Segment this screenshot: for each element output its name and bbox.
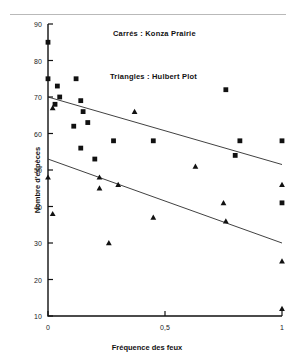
x-tick-label: 0,5	[160, 324, 170, 331]
y-tick-label: 90	[18, 21, 42, 28]
data-point-square	[85, 120, 90, 125]
y-tick-label: 10	[18, 313, 42, 320]
data-point-triangle	[193, 163, 199, 168]
y-axis-title: Nombre d'espèces	[33, 147, 42, 213]
data-point-square	[233, 153, 238, 158]
data-point-triangle	[279, 182, 285, 187]
data-point-square	[223, 87, 228, 92]
x-axis-title: Fréquence des feux	[112, 343, 182, 352]
data-point-triangle	[279, 306, 285, 311]
axis-lines	[48, 24, 282, 316]
y-tick-label: 80	[18, 57, 42, 64]
data-point-triangle	[221, 200, 227, 205]
data-point-square	[55, 84, 60, 89]
data-point-triangle	[106, 240, 112, 245]
data-point-square	[151, 138, 156, 143]
y-tick-label: 20	[18, 276, 42, 283]
x-tick-label: 1	[280, 324, 284, 331]
y-tick-label: 60	[18, 130, 42, 137]
data-point-triangle	[132, 109, 138, 114]
data-point-square	[78, 98, 83, 103]
data-point-triangle	[223, 218, 229, 223]
data-point-square	[53, 102, 58, 107]
data-point-square	[111, 138, 116, 143]
data-point-square	[78, 146, 83, 151]
scatter-plot-figure: Carrés : Konza Prairie Triangles : Hulbe…	[0, 0, 294, 361]
data-point-triangle	[115, 182, 121, 187]
data-point-square	[74, 76, 79, 81]
y-tick-label: 30	[18, 240, 42, 247]
data-point-square	[46, 76, 51, 81]
data-point-square	[46, 40, 51, 45]
data-point-triangle	[45, 174, 51, 179]
data-point-square	[71, 124, 76, 129]
data-point-square	[280, 138, 285, 143]
data-markers	[45, 40, 285, 311]
plot-canvas	[0, 0, 294, 361]
data-point-triangle	[50, 211, 56, 216]
x-tick-label: 0	[46, 324, 50, 331]
data-point-square	[237, 138, 242, 143]
y-tick-label: 70	[18, 94, 42, 101]
data-point-triangle	[150, 215, 156, 220]
regression-lines	[48, 97, 282, 243]
data-point-triangle	[279, 258, 285, 263]
data-point-square	[280, 200, 285, 205]
axis-ticks	[48, 24, 282, 316]
data-point-triangle	[97, 185, 103, 190]
data-point-square	[92, 157, 97, 162]
data-point-square	[81, 109, 86, 114]
data-point-square	[57, 95, 62, 100]
